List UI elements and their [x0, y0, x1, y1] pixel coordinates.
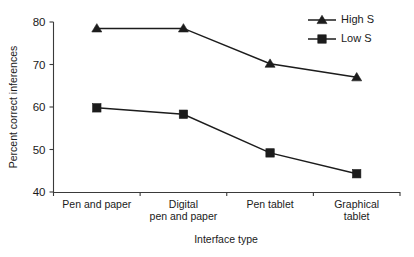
y-axis-tick-label: 80	[33, 16, 46, 28]
data-point-marker	[318, 35, 326, 43]
series-plot-area	[92, 24, 362, 178]
x-axis-category-labels: Pen and paperDigitalpen and paperPen tab…	[62, 198, 379, 222]
y-axis-tick-labels: 4050607080	[33, 16, 46, 198]
data-point-marker	[352, 170, 360, 178]
x-axis	[54, 192, 401, 196]
line-chart: Percent correct inferences 4050607080 Pe…	[0, 0, 414, 257]
data-point-marker	[266, 149, 274, 157]
y-axis-tick-label: 60	[33, 101, 46, 113]
y-axis	[50, 22, 54, 192]
y-axis-tick-label: 50	[33, 144, 46, 156]
chart-container: Percent correct inferences 4050607080 Pe…	[0, 0, 414, 257]
series-line	[97, 108, 357, 174]
legend-label: High S	[341, 13, 374, 25]
x-axis-category-label: Digital	[169, 198, 198, 210]
legend-label: Low S	[341, 32, 372, 44]
data-point-marker	[93, 104, 101, 112]
x-axis-category-label: tablet	[344, 210, 370, 222]
y-axis-title: Percent correct inferences	[7, 46, 19, 169]
chart-legend: High SLow S	[308, 13, 374, 44]
x-axis-category-label: pen and paper	[150, 210, 218, 222]
y-axis-tick-label: 70	[33, 59, 46, 71]
x-axis-category-label: Pen tablet	[246, 198, 293, 210]
data-point-marker	[265, 59, 275, 67]
data-point-marker	[179, 110, 187, 118]
data-series	[92, 24, 362, 81]
x-axis-category-label: Graphical	[334, 198, 379, 210]
y-axis-tick-label: 40	[33, 186, 46, 198]
data-series	[93, 104, 361, 178]
x-axis-category-label: Pen and paper	[62, 198, 131, 210]
x-axis-title: Interface type	[194, 233, 258, 245]
